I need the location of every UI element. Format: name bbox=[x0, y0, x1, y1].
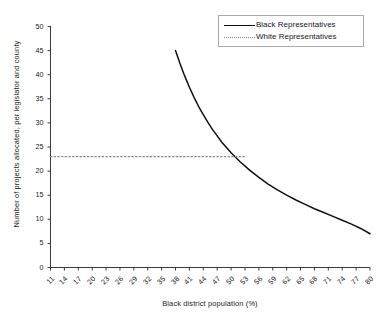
y-tick-label: 35 bbox=[22, 94, 44, 104]
axes bbox=[50, 26, 370, 268]
y-tick-label: 30 bbox=[22, 118, 44, 128]
chart-legend: Black Representatives White Representati… bbox=[218, 15, 364, 47]
plot-area bbox=[0, 0, 377, 318]
y-tick-label: 20 bbox=[22, 166, 44, 176]
legend-line-solid-icon bbox=[222, 20, 256, 30]
y-tick-label: 50 bbox=[22, 22, 44, 32]
y-tick-label: 15 bbox=[22, 190, 44, 200]
x-axis-title: Black district population (%) bbox=[50, 299, 370, 308]
chart-figure: 05101520253035404550 1114172023262932353… bbox=[0, 0, 377, 318]
y-tick-label: 10 bbox=[22, 214, 44, 224]
data-series bbox=[51, 51, 371, 234]
y-tick-label: 0 bbox=[22, 263, 44, 273]
y-axis-title: Number of projects allocated, per legisl… bbox=[11, 0, 23, 268]
series-line-black-representatives bbox=[176, 51, 370, 234]
y-tick-label: 5 bbox=[22, 238, 44, 248]
legend-label-white: White Representatives bbox=[256, 31, 336, 43]
y-tick-label: 25 bbox=[22, 142, 44, 152]
y-tick-label: 40 bbox=[22, 70, 44, 80]
y-tick-label: 45 bbox=[22, 46, 44, 56]
legend-line-dotted-icon bbox=[222, 32, 256, 42]
legend-entry-black: Black Representatives bbox=[222, 19, 359, 31]
legend-entry-white: White Representatives bbox=[222, 31, 359, 43]
legend-label-black: Black Representatives bbox=[256, 19, 336, 31]
